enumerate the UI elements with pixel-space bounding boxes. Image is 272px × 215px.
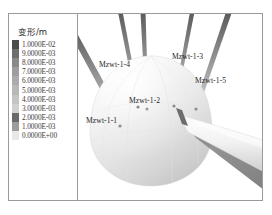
legend-item: 8.0000E-03 [11, 58, 77, 67]
legend-item: 9.0000E-03 [11, 49, 77, 58]
legend-item: 4.0000E-03 [11, 95, 77, 104]
annotation-mzwt-1-1: Mzwt-1-1 [86, 116, 117, 125]
legend-color-swatch [12, 49, 19, 58]
deformation-contour-figure: Mzwt-1-4 Mzwt-1-3 Mzwt-1-5 Mzwt-1-2 Mzwt… [0, 0, 272, 215]
legend-value-label: 7.0000E-03 [22, 67, 55, 76]
annotation-mzwt-1-2: Mzwt-1-2 [129, 96, 160, 105]
legend-color-swatch [12, 122, 19, 131]
legend-color-swatch [12, 76, 19, 85]
legend-item: 1.0000E-03 [11, 122, 77, 131]
legend-color-swatch [12, 58, 19, 67]
legend-color-swatch [12, 113, 19, 122]
legend-value-label: 9.0000E-03 [22, 49, 55, 58]
legend-value-label: 6.0000E-03 [22, 76, 55, 85]
legend-title: 变形/m [18, 25, 47, 37]
legend-item: 3.0000E-03 [11, 104, 77, 113]
model-svg [78, 14, 262, 200]
figure-frame: Mzwt-1-4 Mzwt-1-3 Mzwt-1-5 Mzwt-1-2 Mzwt… [8, 13, 263, 201]
legend-color-swatch [12, 104, 19, 113]
legend-item: 5.0000E-03 [11, 85, 77, 94]
legend-value-label: 5.0000E-03 [22, 86, 55, 95]
legend-value-label: 4.0000E-03 [22, 95, 55, 104]
legend-value-label: 0.0000E+00 [22, 131, 57, 140]
legend-value-label: 3.0000E-03 [22, 104, 55, 113]
annotation-mzwt-1-5: Mzwt-1-5 [195, 76, 226, 85]
three-d-model-view[interactable]: Mzwt-1-4 Mzwt-1-3 Mzwt-1-5 Mzwt-1-2 Mzwt… [78, 14, 262, 200]
legend-color-swatch [12, 67, 19, 76]
legend-rows: 1.0000E-02 9.0000E-03 8.0000E-03 7.0000E… [11, 40, 77, 140]
legend-item: 1.0000E-02 [11, 40, 77, 49]
legend-value-label: 1.0000E-03 [22, 122, 55, 131]
legend-color-swatch [12, 85, 19, 94]
legend-color-swatch [12, 40, 19, 49]
legend-value-label: 1.0000E-02 [22, 40, 55, 49]
legend-item: 2.0000E-03 [11, 113, 77, 122]
annotation-mzwt-1-3: Mzwt-1-3 [172, 52, 203, 61]
legend-color-swatch [12, 95, 19, 104]
legend-item: 6.0000E-03 [11, 76, 77, 85]
legend-value-label: 2.0000E-03 [22, 113, 55, 122]
legend-item: 7.0000E-03 [11, 67, 77, 76]
legend-panel: 变形/m 1.0000E-02 9.0000E-03 8.0000E-03 7.… [9, 14, 78, 200]
legend-color-swatch [12, 131, 19, 140]
annotation-mzwt-1-4: Mzwt-1-4 [99, 60, 130, 69]
legend-item: 0.0000E+00 [11, 131, 77, 140]
legend-value-label: 8.0000E-03 [22, 58, 55, 67]
